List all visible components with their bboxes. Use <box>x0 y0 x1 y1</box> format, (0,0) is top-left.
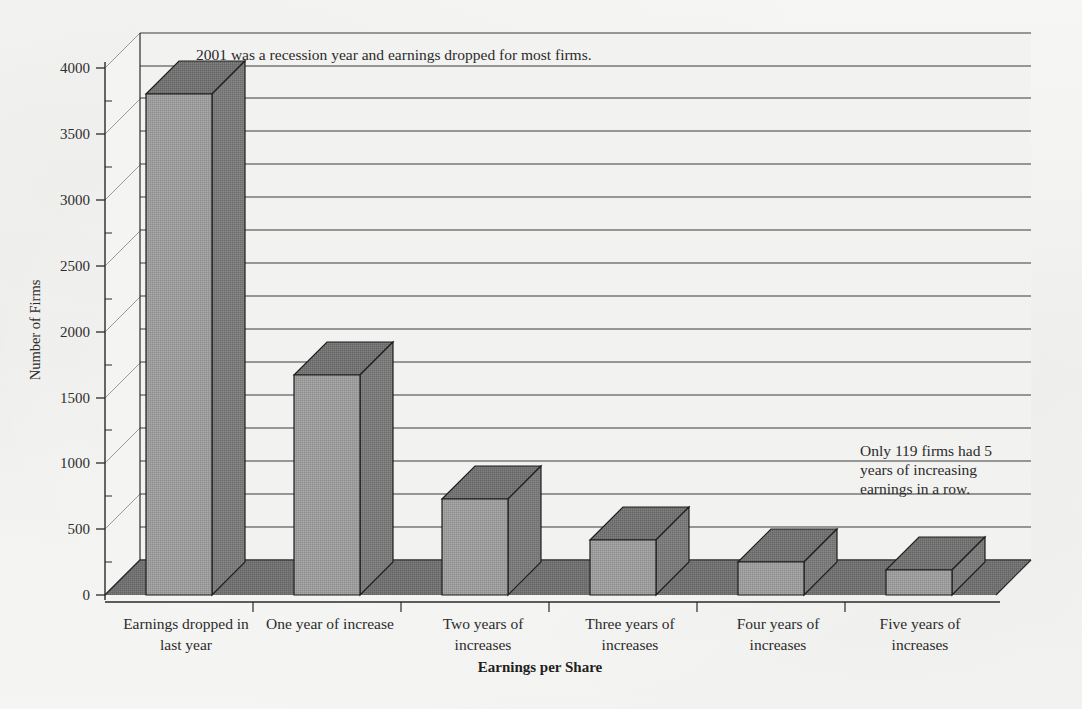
category-label-1-line1: One year of increase <box>266 615 394 632</box>
y-tick-0: 0 <box>83 587 91 603</box>
y-tick-500: 500 <box>68 521 91 537</box>
y-tick-1000: 1000 <box>60 455 90 471</box>
y-tick-2500: 2500 <box>60 258 90 274</box>
x-axis-category-labels: Earnings dropped in last year One year o… <box>123 615 961 653</box>
chart-figure: 0 500 1000 1500 2000 2500 3000 3500 4000… <box>0 0 1082 709</box>
category-label-0-line2: last year <box>160 636 213 653</box>
bar-earnings-dropped-in-last-year[interactable] <box>146 61 245 595</box>
category-label-4-line1: Four years of <box>737 615 820 632</box>
y-tick-3000: 3000 <box>60 192 90 208</box>
bar-one-year-of-increase[interactable] <box>294 342 393 595</box>
bar-chart-canvas: 0 500 1000 1500 2000 2500 3000 3500 4000… <box>0 0 1082 709</box>
category-label-2-line1: Two years of <box>443 615 525 632</box>
category-label-3-line1: Three years of <box>585 615 675 632</box>
y-tick-2000: 2000 <box>60 324 90 340</box>
bar-two-years-of-increases[interactable] <box>442 466 541 595</box>
annotation-five-years-line1: Only 119 firms had 5 <box>860 442 992 459</box>
annotation-five-years-line3: earnings in a row. <box>860 480 970 497</box>
category-label-0-line1: Earnings dropped in <box>123 615 249 632</box>
category-label-4-line2: increases <box>750 636 807 653</box>
x-axis-title: Earnings per Share <box>478 659 603 675</box>
category-label-2-line2: increases <box>455 636 512 653</box>
y-axis-title: Number of Firms <box>27 279 43 380</box>
annotation-five-years-line2: years of increasing <box>860 461 977 478</box>
y-tick-3500: 3500 <box>60 126 90 142</box>
category-label-5-line2: increases <box>892 636 949 653</box>
category-label-3-line2: increases <box>602 636 659 653</box>
plot-left-depth-wall <box>105 33 140 595</box>
y-tick-4000: 4000 <box>60 60 90 76</box>
y-tick-1500: 1500 <box>60 390 90 406</box>
x-axis <box>105 602 1000 612</box>
annotation-recession-note: 2001 was a recession year and earnings d… <box>196 46 592 63</box>
y-axis-tick-labels: 0 500 1000 1500 2000 2500 3000 3500 4000 <box>60 60 90 603</box>
category-label-5-line1: Five years of <box>880 615 962 632</box>
